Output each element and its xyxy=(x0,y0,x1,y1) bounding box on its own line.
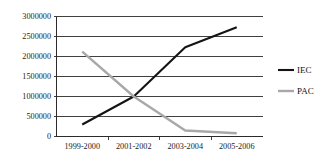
chart-legend: IECPAC xyxy=(278,65,314,96)
y-tick-label: 1500000 xyxy=(22,72,51,81)
y-axis-tick-labels: 0500000100000015000002000000250000030000… xyxy=(22,12,51,141)
x-tick-label: 2005-2006 xyxy=(219,142,254,151)
y-tick-label: 1000000 xyxy=(22,92,51,101)
legend-label-pac: PAC xyxy=(297,86,314,96)
line-chart: 0500000100000015000002000000250000030000… xyxy=(0,0,326,163)
y-tick-label: 500000 xyxy=(26,112,51,121)
x-axis-tick-labels: 1999-20002001-20022003-20042005-2006 xyxy=(65,142,255,151)
series-line-iec xyxy=(82,27,237,124)
x-tick-label: 2001-2002 xyxy=(116,142,151,151)
chart-canvas: 0500000100000015000002000000250000030000… xyxy=(0,0,326,163)
data-series-group xyxy=(82,27,237,133)
y-tick-label: 2500000 xyxy=(22,32,51,41)
x-tick-label: 2003-2004 xyxy=(168,142,203,151)
series-line-pac xyxy=(82,52,237,134)
y-tick-label: 0 xyxy=(47,132,51,141)
y-tick-label: 3000000 xyxy=(22,12,51,21)
y-tick-label: 2000000 xyxy=(22,52,51,61)
gridlines-group xyxy=(57,17,263,137)
x-tick-label: 1999-2000 xyxy=(65,142,100,151)
legend-label-iec: IEC xyxy=(297,65,312,75)
